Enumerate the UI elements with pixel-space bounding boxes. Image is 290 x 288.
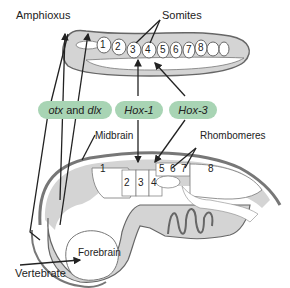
somite-3: 3 bbox=[130, 45, 136, 55]
somite-8: 8 bbox=[198, 43, 204, 53]
rhombomere-4: 4 bbox=[151, 178, 157, 188]
midbrain-label: Midbrain bbox=[95, 131, 133, 141]
rhombomere-6: 6 bbox=[170, 164, 176, 174]
somite-6: 6 bbox=[173, 45, 179, 55]
and-text: and bbox=[63, 104, 87, 116]
forebrain-label: Forebrain bbox=[78, 248, 121, 258]
vertebrate-embryo bbox=[32, 153, 280, 287]
hox1-gene-label: Hox-1 bbox=[115, 101, 163, 119]
vertebrate-label: Vertebrate bbox=[15, 268, 66, 279]
somite-2: 2 bbox=[115, 42, 121, 52]
otx-dlx-gene-label: otx and dlx bbox=[38, 101, 112, 119]
somite-4: 4 bbox=[145, 45, 151, 55]
diagram: Amphioxus Somites 1 2 3 4 5 6 7 8 otx an… bbox=[0, 0, 290, 288]
hox3-text: Hox-3 bbox=[178, 104, 207, 116]
somite-5: 5 bbox=[160, 45, 166, 55]
dlx-gene: dlx bbox=[88, 104, 102, 116]
rhombomere-3: 3 bbox=[138, 178, 144, 188]
rhombomeres-label: Rhombomeres bbox=[200, 131, 266, 141]
rhombomere-5: 5 bbox=[159, 164, 165, 174]
somite-7: 7 bbox=[186, 45, 192, 55]
otx-gene: otx bbox=[48, 104, 63, 116]
somites-label: Somites bbox=[162, 10, 202, 21]
hox1-text: Hox-1 bbox=[124, 104, 153, 116]
rhombomere-1: 1 bbox=[100, 164, 106, 174]
rhombomere-7: 7 bbox=[181, 164, 187, 174]
rhombomere-2: 2 bbox=[124, 178, 130, 188]
amphioxus-label: Amphioxus bbox=[16, 10, 70, 21]
somite-1: 1 bbox=[100, 40, 106, 50]
rhombomere-8: 8 bbox=[208, 164, 214, 174]
amphioxus-body bbox=[63, 31, 250, 76]
hox3-gene-label: Hox-3 bbox=[169, 101, 217, 119]
